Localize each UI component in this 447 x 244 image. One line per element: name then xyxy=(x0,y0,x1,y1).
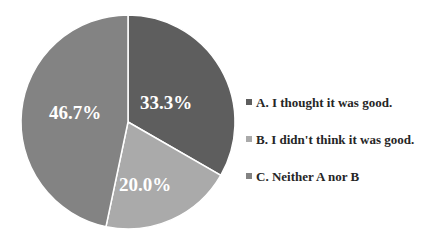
pie-chart: 33.3%20.0%46.7% xyxy=(0,0,250,244)
legend-item-b: B. I didn't think it was good. xyxy=(246,121,414,158)
slice-label-a: 33.3% xyxy=(140,92,192,113)
legend-label-a: A. I thought it was good. xyxy=(256,95,392,111)
legend: A. I thought it was good. B. I didn't th… xyxy=(246,84,414,195)
legend-item-c: C. Neither A nor B xyxy=(246,158,414,195)
slice-label-b: 20.0% xyxy=(119,174,171,195)
legend-marker-a xyxy=(246,99,252,105)
legend-label-b: B. I didn't think it was good. xyxy=(256,132,414,148)
legend-item-a: A. I thought it was good. xyxy=(246,84,414,121)
legend-label-c: C. Neither A nor B xyxy=(256,169,359,185)
slice-label-c: 46.7% xyxy=(49,102,101,123)
legend-marker-c xyxy=(246,173,252,179)
legend-marker-b xyxy=(246,136,252,142)
